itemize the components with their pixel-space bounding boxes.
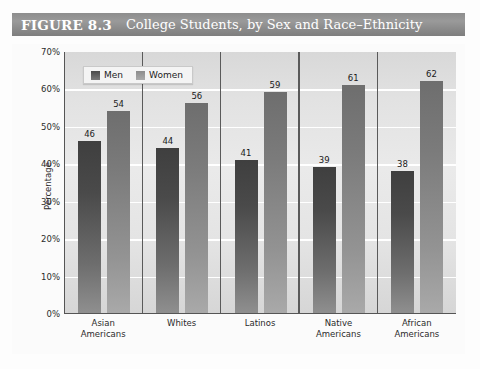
x-axis-label: Whites (142, 318, 220, 340)
figure-container: FIGURE 8.3 College Students, by Sex and … (0, 0, 480, 369)
bar-value-label: 56 (191, 91, 202, 101)
bar-wrapper: 59 (264, 52, 287, 313)
x-axis-label: NativeAmericans (299, 318, 377, 340)
bar-women: 62 (420, 81, 443, 313)
bar-group: 4159 (221, 52, 299, 313)
figure-title-bar: FIGURE 8.3 College Students, by Sex and … (12, 13, 465, 36)
bar-wrapper: 62 (420, 52, 443, 313)
figure-number: FIGURE 8.3 (21, 17, 112, 33)
x-axis-label-line: Americans (64, 329, 142, 340)
bar-groups: 46544456415939613862 (65, 52, 456, 313)
bar-value-label: 61 (348, 73, 359, 83)
bar-value-label: 62 (426, 69, 437, 79)
x-axis-label-line: Latinos (221, 318, 299, 329)
legend-item-women: Women (136, 70, 183, 80)
x-axis-label-line: Americans (378, 329, 456, 340)
bar-value-label: 54 (113, 99, 124, 109)
figure-title: College Students, by Sex and Race–Ethnic… (126, 17, 422, 32)
y-axis-tick: 20% (41, 234, 60, 244)
bar-men: 44 (156, 148, 179, 313)
bar-group: 3862 (378, 52, 456, 313)
legend-swatch-men-icon (91, 71, 100, 80)
y-axis-tick: 70% (41, 47, 60, 57)
x-axis-label-line: Native (299, 318, 377, 329)
y-axis-tick: 60% (41, 84, 60, 94)
y-axis-tick: 50% (41, 122, 60, 132)
x-axis-label-line: Americans (299, 329, 377, 340)
plot-area: 46544456415939613862 Men Women (64, 52, 456, 314)
x-axis-category-labels: AsianAmericansWhitesLatinosNativeAmerica… (64, 318, 456, 340)
y-axis-tick: 0% (47, 309, 61, 319)
bar-men: 46 (78, 141, 101, 313)
bar-wrapper: 41 (235, 52, 258, 313)
bar-men: 39 (313, 167, 336, 313)
x-axis-label-line: African (378, 318, 456, 329)
bar-women: 56 (185, 103, 208, 313)
bar-wrapper: 46 (78, 52, 101, 313)
bar-value-label: 46 (84, 129, 95, 139)
legend-swatch-women-icon (136, 71, 145, 80)
y-axis-tick-labels: 70%60%50%40%30%20%10%0% (22, 52, 60, 314)
bar-men: 41 (235, 160, 258, 313)
bar-women: 54 (107, 111, 130, 313)
bar-wrapper: 61 (342, 52, 365, 313)
bar-wrapper: 44 (156, 52, 179, 313)
bar-value-label: 41 (241, 148, 252, 158)
x-axis-label-line: Asian (64, 318, 142, 329)
bar-group: 4654 (65, 52, 143, 313)
chart-legend: Men Women (83, 66, 193, 84)
bar-men: 38 (391, 171, 414, 313)
bar-group: 3961 (300, 52, 378, 313)
legend-label-men: Men (104, 70, 123, 80)
y-axis-tick: 10% (41, 272, 60, 282)
y-axis-tick: 30% (41, 197, 60, 207)
x-axis-label: Latinos (221, 318, 299, 340)
bar-value-label: 44 (162, 136, 173, 146)
legend-item-men: Men (91, 70, 123, 80)
x-axis-label-line: Whites (142, 318, 220, 329)
bar-value-label: 59 (270, 80, 281, 90)
y-axis-tick: 40% (41, 159, 60, 169)
bar-wrapper: 38 (391, 52, 414, 313)
chart-panel: Percentage 70%60%50%40%30%20%10%0% 46544… (12, 44, 465, 354)
bar-wrapper: 39 (313, 52, 336, 313)
bar-women: 61 (342, 85, 365, 313)
x-axis-label: AsianAmericans (64, 318, 142, 340)
bar-women: 59 (264, 92, 287, 313)
bar-group: 4456 (143, 52, 221, 313)
bar-wrapper: 54 (107, 52, 130, 313)
bar-value-label: 39 (319, 155, 330, 165)
bar-value-label: 38 (397, 159, 408, 169)
bar-wrapper: 56 (185, 52, 208, 313)
legend-label-women: Women (149, 70, 183, 80)
x-axis-label: AfricanAmericans (378, 318, 456, 340)
